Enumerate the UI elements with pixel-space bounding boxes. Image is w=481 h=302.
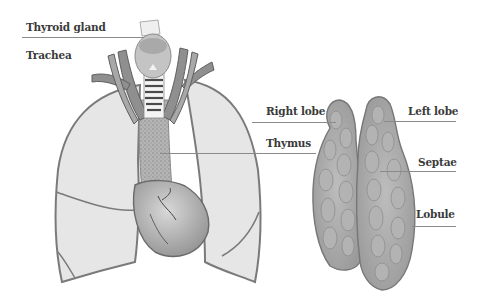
anatomy-illustration [0,0,481,302]
leader-line-thyroid-gland [22,37,144,38]
isolated-thymus [313,97,415,290]
leader-line-lobule [412,226,456,227]
label-thyroid-gland: Thyroid gland [26,21,106,33]
heart [134,181,209,257]
label-thymus: Thymus [266,137,311,149]
label-septae: Septae [418,156,457,168]
label-lobule: Lobule [416,208,455,220]
leader-line-septae [380,171,456,172]
thyroid-gland [135,20,171,78]
leader-line-thymus [160,153,316,154]
label-right-lobe: Right lobe [266,105,325,117]
thymus-anatomy-diagram: Thyroid gland Trachea Right lobe Left lo… [0,0,481,302]
label-left-lobe: Left lobe [408,105,458,117]
label-trachea: Trachea [26,49,72,61]
leader-line-right-lobe [252,122,336,123]
leader-line-left-lobe [384,121,456,122]
